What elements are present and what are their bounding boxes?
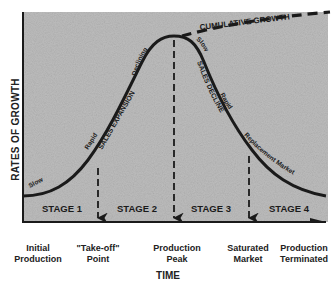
stage-3-label: STAGE 3 (191, 203, 231, 214)
milestone-production-terminated: Production Terminated (269, 243, 336, 265)
milestone-takeoff-point: "Take-off" Point (63, 243, 133, 265)
stage-4-label: STAGE 4 (269, 203, 310, 214)
milestone-line1: Production (142, 243, 212, 254)
milestone-line1: Production (269, 243, 336, 254)
chart-area (22, 12, 328, 222)
stage-2-label: STAGE 2 (117, 203, 157, 214)
milestone-production-peak: Production Peak (142, 243, 212, 265)
milestone-line2: Terminated (269, 254, 336, 265)
milestone-line2: Peak (142, 254, 212, 265)
y-axis-label: RATES OF GROWTH (10, 55, 21, 205)
x-axis-label: TIME (0, 270, 336, 281)
milestone-line1: "Take-off" (63, 243, 133, 254)
milestone-line2: Point (63, 254, 133, 265)
stage-1-label: STAGE 1 (42, 203, 83, 214)
